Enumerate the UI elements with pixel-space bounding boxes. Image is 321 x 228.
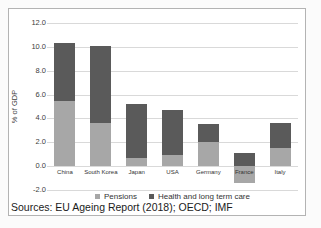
y-tick-label: 12.0 [20, 19, 46, 27]
y-tick-label: 8.0 [20, 67, 46, 75]
legend-item: Pensions [95, 192, 137, 201]
gridline [47, 23, 298, 24]
y-tick-label: 10.0 [20, 43, 46, 51]
bar-segment [162, 110, 183, 155]
bar-segment [126, 158, 147, 166]
y-tick-label: 0.0 [20, 162, 46, 170]
gridline [47, 95, 298, 96]
x-category-label: Italy [262, 169, 298, 176]
x-category-label: China [47, 169, 83, 176]
legend-marker [95, 194, 100, 199]
gridline [47, 166, 298, 167]
x-category-label: USA [155, 169, 191, 176]
y-tick-label: -2.0 [20, 186, 46, 194]
bar-segment [90, 46, 111, 124]
y-tick-label: 4.0 [20, 114, 46, 122]
x-category-label: Japan [119, 169, 155, 176]
bar-segment [270, 123, 291, 148]
bar-segment [270, 148, 291, 166]
y-tick-label: 6.0 [20, 91, 46, 99]
legend-item: Health and long term care [149, 192, 250, 201]
bar-segment [126, 104, 147, 158]
bar-segment [234, 153, 255, 166]
bar-segment [162, 155, 183, 166]
x-category-label: Germany [190, 169, 226, 176]
x-category-label: South Korea [83, 169, 119, 176]
bar-segment [198, 124, 219, 142]
y-tick-label: 2.0 [20, 138, 46, 146]
x-category-label: France [226, 169, 262, 176]
y-axis-title: % of GDP [11, 90, 20, 123]
bar-segment [54, 101, 75, 167]
bar-segment [90, 123, 111, 166]
gridline [47, 47, 298, 48]
source-note: Sources: EU Ageing Report (2018); OECD; … [11, 201, 233, 213]
legend-label: Pensions [104, 192, 137, 201]
gridline [47, 71, 298, 72]
bar-segment [54, 43, 75, 100]
legend-marker [149, 194, 154, 199]
bar-segment [198, 142, 219, 166]
legend-label: Health and long term care [158, 192, 250, 201]
